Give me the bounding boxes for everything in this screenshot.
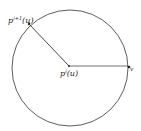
label-upper-arg: (u) bbox=[22, 16, 33, 25]
label-right-sub: v bbox=[130, 65, 133, 72]
center-point bbox=[68, 65, 70, 67]
label-right-point: qv bbox=[130, 64, 133, 72]
label-upper-sup: i+1 bbox=[13, 15, 22, 21]
label-center-sup: i bbox=[65, 68, 67, 74]
radius-upper bbox=[29, 24, 69, 66]
circle bbox=[12, 10, 128, 126]
label-center-arg: (u) bbox=[67, 69, 78, 78]
label-center-point: pi(u) bbox=[60, 70, 78, 78]
label-upper-point: pi+1(u) bbox=[8, 17, 34, 25]
